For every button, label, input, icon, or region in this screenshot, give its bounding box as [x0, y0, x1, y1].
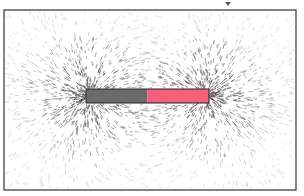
magnetic-field-illustration [0, 0, 304, 196]
magnet-north-pole [148, 89, 210, 103]
magnet-south-pole [86, 89, 148, 103]
bar-magnet [86, 89, 209, 103]
